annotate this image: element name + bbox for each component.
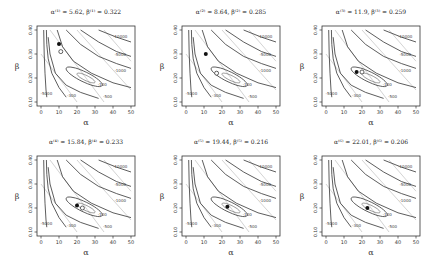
contour-plot: -10000-5000-1000-100-500-300-50000102030… [145,130,287,261]
svg-text:0.40: 0.40 [28,155,33,165]
svg-text:-5000: -5000 [114,52,126,57]
contour-panel-4: α⁽⁴⁾ = 15.84, β⁽⁴⁾ = 0.233-10000-5000-10… [0,130,142,261]
svg-text:10: 10 [341,239,347,245]
svg-text:50: 50 [128,109,134,115]
svg-text:0.40: 0.40 [173,155,178,165]
svg-text:-100: -100 [383,82,393,87]
svg-text:0.30: 0.30 [28,49,33,59]
svg-text:0.40: 0.40 [28,25,33,35]
svg-text:10: 10 [201,109,207,115]
svg-text:10: 10 [56,109,62,115]
svg-text:0: 0 [324,109,327,115]
svg-text:-1000: -1000 [399,198,411,203]
svg-text:-10000: -10000 [258,34,273,39]
svg-text:10: 10 [56,239,62,245]
svg-text:30: 30 [92,239,98,245]
svg-text:40: 40 [110,109,116,115]
svg-text:0.10: 0.10 [173,97,178,107]
svg-text:-5000: -5000 [186,221,198,226]
svg-text:50: 50 [413,239,419,245]
svg-text:0.10: 0.10 [28,97,33,107]
svg-text:-10000: -10000 [113,164,128,169]
svg-text:0.40: 0.40 [313,155,318,165]
svg-text:0: 0 [39,239,42,245]
svg-text:-10000: -10000 [258,164,273,169]
svg-text:0.20: 0.20 [28,203,33,213]
svg-text:-5000: -5000 [41,91,53,96]
contour-panel-2: α⁽²⁾ = 8.64, β⁽²⁾ = 0.285-10000-5000-100… [145,0,287,131]
svg-text:20: 20 [219,239,225,245]
contour-plot: -10000-5000-1000-100-500-300-50000102030… [285,0,427,131]
svg-text:30: 30 [92,109,98,115]
svg-text:α: α [83,118,89,127]
svg-text:0.40: 0.40 [173,25,178,35]
svg-text:40: 40 [110,239,116,245]
svg-text:30: 30 [377,109,383,115]
svg-text:0: 0 [184,239,187,245]
svg-text:β: β [160,192,165,201]
svg-text:-10000: -10000 [398,34,413,39]
svg-text:-1000: -1000 [114,68,126,73]
svg-text:40: 40 [255,239,261,245]
svg-text:-5000: -5000 [399,182,411,187]
svg-text:0.20: 0.20 [28,73,33,83]
svg-text:40: 40 [395,239,401,245]
svg-text:β: β [300,192,305,201]
svg-text:0.10: 0.10 [313,227,318,237]
svg-text:40: 40 [255,109,261,115]
svg-text:-500: -500 [388,94,398,99]
svg-text:-10000: -10000 [398,164,413,169]
svg-text:β: β [15,62,20,71]
contour-panel-3: α⁽³⁾ = 11.9, β⁽³⁾ = 0.259-10000-5000-100… [285,0,427,131]
svg-text:20: 20 [74,239,80,245]
contour-plot: -10000-5000-1000-100-500-300-50000102030… [145,0,287,131]
svg-text:-300: -300 [212,223,222,228]
contour-panel-6: α⁽⁶⁾ = 22.01, β⁽⁶⁾ = 0.206-10000-5000-10… [285,130,427,261]
svg-text:-500: -500 [248,94,258,99]
svg-text:20: 20 [219,109,225,115]
svg-text:-300: -300 [67,223,77,228]
svg-text:-100: -100 [383,212,393,217]
figure-grid: α⁽¹⁾ = 5.62, β⁽¹⁾ = 0.322-10000-5000-100… [0,0,427,263]
svg-text:0.30: 0.30 [313,49,318,59]
svg-text:0.10: 0.10 [28,227,33,237]
svg-text:β: β [300,62,305,71]
svg-text:0: 0 [324,239,327,245]
svg-text:30: 30 [377,239,383,245]
svg-text:-300: -300 [352,223,362,228]
svg-text:50: 50 [128,239,134,245]
svg-text:50: 50 [273,109,279,115]
svg-text:α: α [83,248,89,257]
svg-text:0.30: 0.30 [313,179,318,189]
svg-text:α: α [368,118,374,127]
svg-text:α: α [228,248,234,257]
svg-text:0.40: 0.40 [313,25,318,35]
svg-text:-1000: -1000 [114,198,126,203]
svg-text:40: 40 [395,109,401,115]
svg-text:-5000: -5000 [326,221,338,226]
svg-text:0.30: 0.30 [28,179,33,189]
svg-text:-100: -100 [243,82,253,87]
svg-text:0.30: 0.30 [173,49,178,59]
svg-text:20: 20 [359,239,365,245]
svg-text:-5000: -5000 [399,52,411,57]
svg-text:-100: -100 [98,212,108,217]
svg-text:0.10: 0.10 [173,227,178,237]
svg-text:30: 30 [237,109,243,115]
contour-panel-5: α⁽⁵⁾ = 19.44, β⁽⁵⁾ = 0.216-10000-5000-10… [145,130,287,261]
svg-text:10: 10 [341,109,347,115]
svg-text:0.30: 0.30 [173,179,178,189]
svg-text:50: 50 [273,239,279,245]
svg-text:20: 20 [359,109,365,115]
svg-text:-1000: -1000 [259,198,271,203]
svg-text:-5000: -5000 [259,52,271,57]
svg-text:β: β [15,192,20,201]
contour-plot: -10000-5000-1000-100-500-300-50000102030… [0,130,142,261]
svg-text:-5000: -5000 [114,182,126,187]
svg-text:-5000: -5000 [326,91,338,96]
svg-text:30: 30 [237,239,243,245]
svg-text:10: 10 [201,239,207,245]
contour-plot: -10000-5000-1000-100-500-300-50000102030… [0,0,142,131]
svg-text:-5000: -5000 [186,91,198,96]
svg-text:-5000: -5000 [41,221,53,226]
